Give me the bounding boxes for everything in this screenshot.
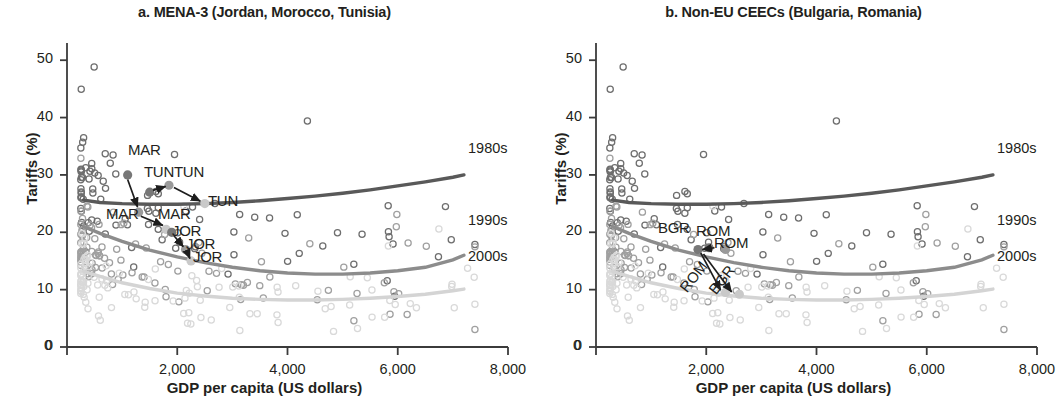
scatter-point xyxy=(804,319,810,325)
x-tick-label: 0 xyxy=(16,337,80,353)
scatter-point xyxy=(145,221,151,227)
scatter-point xyxy=(647,257,653,263)
y-tick-label: 20 xyxy=(542,222,582,238)
scatter-point xyxy=(700,151,706,157)
scatter-point xyxy=(320,243,326,249)
scatter-point xyxy=(182,295,188,301)
scatter-point xyxy=(608,215,614,221)
x-tick-label: 2,000 xyxy=(145,361,209,377)
scatter-point xyxy=(870,264,876,270)
scatter-point xyxy=(385,203,391,209)
country-annotation-label: BGR xyxy=(658,219,690,236)
scatter-point xyxy=(86,176,92,182)
chart-panel-b: b. Non-EU CEECs (Bulgaria, Romania) Tari… xyxy=(529,0,1058,409)
scatter-point xyxy=(639,152,645,158)
scatter-point xyxy=(110,152,116,158)
scatter-point xyxy=(472,301,478,307)
scatter-point xyxy=(803,312,809,318)
scatter-point xyxy=(92,236,98,242)
country-annotation-label: MAR xyxy=(158,205,190,222)
scatter-point xyxy=(152,266,158,272)
scatter-point xyxy=(282,230,288,236)
scatter-point xyxy=(658,270,664,276)
scatter-point xyxy=(637,271,643,277)
scatter-point xyxy=(252,214,258,220)
scatter-point xyxy=(786,283,792,289)
scatter-point xyxy=(964,254,970,260)
scatter-point xyxy=(796,274,802,280)
scatter-point xyxy=(175,268,181,274)
y-tick-label: 50 xyxy=(13,50,53,66)
country-annotation-label: ROM xyxy=(714,234,748,251)
scatter-point xyxy=(727,314,733,320)
scatter-point xyxy=(451,305,457,311)
scatter-point xyxy=(165,261,171,267)
trend-curve-2000s xyxy=(613,271,993,300)
decade-legend-label: 1980s xyxy=(468,140,508,156)
scatter-point xyxy=(814,258,820,264)
country-marker xyxy=(145,188,154,197)
scatter-point xyxy=(78,155,84,161)
scatter-point xyxy=(811,230,817,236)
scatter-point xyxy=(304,118,310,124)
country-annotation-label: JOR xyxy=(193,248,222,265)
scatter-point xyxy=(643,246,649,252)
scatter-point xyxy=(107,160,113,166)
scatter-point xyxy=(888,231,894,237)
scatter-point xyxy=(615,176,621,182)
scatter-point xyxy=(898,287,904,293)
scatter-point xyxy=(637,305,643,311)
scatter-point xyxy=(993,265,999,271)
scatter-point xyxy=(129,270,135,276)
scatter-point xyxy=(225,271,231,277)
scatter-point xyxy=(795,215,801,221)
decade-legend-label: 1990s xyxy=(997,212,1037,228)
scatter-point xyxy=(315,288,321,294)
scatter-point xyxy=(833,118,839,124)
scatter-point xyxy=(364,275,370,281)
scatter-point xyxy=(267,274,273,280)
scatter-point xyxy=(922,224,928,230)
scatter-point xyxy=(413,305,419,311)
y-tick-label: 10 xyxy=(542,280,582,296)
scatter-point xyxy=(742,270,748,276)
scatter-point xyxy=(257,283,263,289)
x-tick-label: 4,000 xyxy=(785,361,849,377)
scatter-point xyxy=(114,246,120,252)
scatter-point xyxy=(197,297,203,303)
scatter-point xyxy=(405,240,411,246)
scatter-point xyxy=(79,215,85,221)
y-tick-label: 20 xyxy=(13,222,53,238)
scatter-point xyxy=(354,325,360,331)
scatter-point xyxy=(1001,326,1007,332)
y-tick-label: 30 xyxy=(542,165,582,181)
scatter-point xyxy=(898,314,904,320)
scatter-point xyxy=(100,178,106,184)
scatter-point xyxy=(472,326,478,332)
scatter-point xyxy=(776,311,782,317)
scatter-point xyxy=(118,257,124,263)
scatter-point xyxy=(330,328,336,334)
scatter-point xyxy=(101,255,107,261)
scatter-point xyxy=(631,185,637,191)
decade-legend-label: 2000s xyxy=(468,248,508,264)
country-annotation-label: MAR xyxy=(106,205,138,222)
scatter-point xyxy=(642,171,648,177)
scatter-point xyxy=(849,243,855,249)
country-marker xyxy=(164,181,173,190)
scatter-point xyxy=(607,145,613,151)
scatter-point xyxy=(737,317,743,323)
scatter-point xyxy=(108,271,114,277)
scatter-point xyxy=(275,319,281,325)
x-tick-label: 2,000 xyxy=(674,361,738,377)
scatter-point xyxy=(354,290,360,296)
x-tick-label: 6,000 xyxy=(895,361,959,377)
scatter-point xyxy=(754,271,760,277)
scatter-point xyxy=(208,317,214,323)
scatter-point xyxy=(392,301,398,307)
scatter-point xyxy=(880,261,886,267)
scatter-point xyxy=(783,311,789,317)
scatter-point xyxy=(254,311,260,317)
scatter-point xyxy=(760,252,766,258)
scatter-point xyxy=(607,86,613,92)
